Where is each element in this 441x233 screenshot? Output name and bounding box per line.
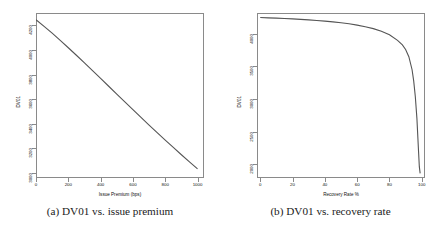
- y-tick-label: 2000: [250, 164, 254, 174]
- y-tick-label: 4200: [29, 25, 33, 35]
- plot-area-a: 3000320034003600380040004200020040060080…: [36, 13, 204, 178]
- x-tick-label: 200: [65, 183, 72, 187]
- x-tick-label: 800: [162, 183, 169, 187]
- figure-container: 3000320034003600380040004200020040060080…: [0, 0, 441, 233]
- y-tick-label: 4000: [29, 50, 33, 60]
- x-tick-label: 80: [387, 183, 392, 187]
- y-axis-title-b: DV01: [238, 96, 243, 108]
- x-axis-title-a: Issue Premium (bps): [99, 193, 141, 198]
- x-tick-label: 0: [259, 183, 261, 187]
- x-tick-label: 40: [322, 183, 327, 187]
- x-tick-label: 60: [355, 183, 360, 187]
- x-tick-label: 20: [290, 183, 295, 187]
- curve-dv01-recovery-rate: [257, 13, 425, 178]
- x-tick-label: 0: [35, 183, 37, 187]
- caption-a: (a) DV01 vs. issue premium: [0, 205, 220, 217]
- y-tick-label: 3500: [250, 66, 254, 76]
- y-tick-label: 3800: [29, 75, 33, 85]
- panel-dv01-vs-issue-premium: 3000320034003600380040004200020040060080…: [0, 0, 220, 233]
- y-tick-label: 3600: [29, 99, 33, 109]
- x-tick-label: 1000: [193, 183, 203, 187]
- caption-b: (b) DV01 vs. recovery rate: [220, 205, 441, 217]
- y-axis-title-a: DV01: [17, 96, 22, 108]
- y-tick-label: 3200: [29, 148, 33, 158]
- y-tick-label: 3400: [29, 124, 33, 134]
- y-tick-label: 4000: [250, 34, 254, 44]
- y-tick-label: 3000: [250, 99, 254, 109]
- x-tick-label: 100: [418, 183, 425, 187]
- x-axis-title-b: Recovery Rate %: [323, 193, 359, 198]
- x-tick-label: 400: [97, 183, 104, 187]
- plot-area-b: 20002500300035004000020406080100 Recover…: [257, 13, 425, 178]
- y-tick-label: 3000: [29, 173, 33, 183]
- y-tick-label: 2500: [250, 132, 254, 142]
- x-tick-label: 600: [129, 183, 136, 187]
- curve-dv01-issue-premium: [36, 13, 204, 178]
- panel-dv01-vs-recovery-rate: 20002500300035004000020406080100 Recover…: [220, 0, 441, 233]
